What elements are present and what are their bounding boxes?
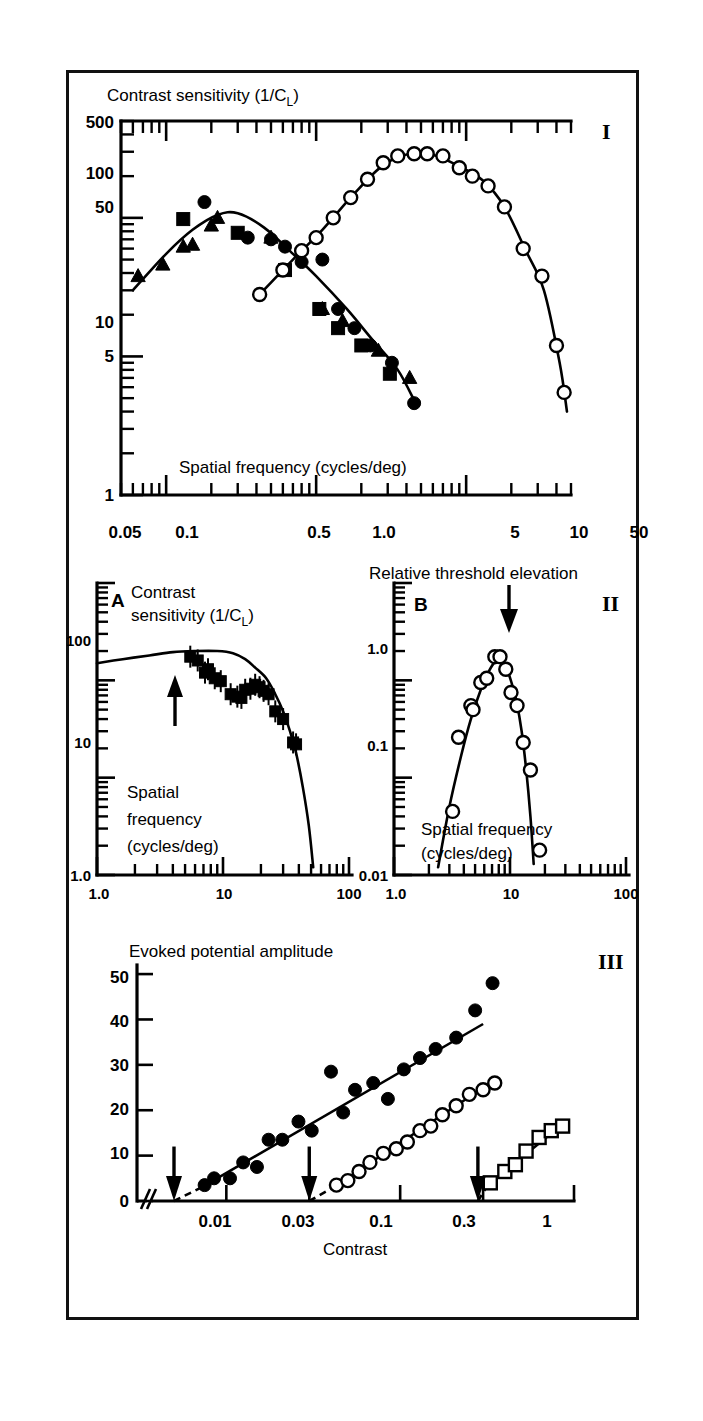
panel-III-y-title: Evoked potential amplitude (129, 942, 333, 961)
svg-text:50: 50 (630, 523, 649, 542)
subpanel-A-xtick-10: 10 (216, 885, 233, 902)
panel-III-x-tick-labels: 0.01 0.03 0.1 0.3 1 (198, 1212, 551, 1231)
svg-text:0.1: 0.1 (369, 1212, 393, 1231)
svg-text:0.1: 0.1 (175, 523, 199, 542)
panel-III-roman-numeral: III (598, 949, 624, 974)
subpanel-B-xtick-1: 1.0 (386, 885, 407, 902)
subpanel-A-y-ticks (97, 583, 115, 875)
svg-text:0.03: 0.03 (281, 1212, 314, 1231)
subpanel-A-x-title-line1: Spatial (127, 783, 179, 802)
subpanel-A-y-title-line1: Contrast (131, 583, 196, 602)
svg-text:0.05: 0.05 (108, 523, 141, 542)
panel-I-y-ticks (121, 121, 143, 495)
subpanel-B-label: B (414, 594, 428, 615)
subpanel-B-ytick-01: 0.1 (367, 737, 388, 754)
subpanel-B-y-title: Relative threshold elevation (369, 564, 578, 583)
panel-III-y-ticks (137, 974, 153, 1201)
svg-text:30: 30 (110, 1056, 129, 1075)
subpanel-B-y-ticks (394, 583, 412, 875)
panel-I-y-title: Contrast sensitivity (1/CL) (107, 86, 299, 109)
panel-III-y-tick-labels: 50 40 30 20 10 0 (110, 968, 129, 1211)
panel-III-data-points (198, 977, 569, 1192)
svg-text:10: 10 (570, 523, 589, 542)
svg-text:1: 1 (105, 486, 114, 505)
subpanel-A-x-title-line2: frequency (127, 810, 202, 829)
svg-text:0.5: 0.5 (307, 523, 331, 542)
svg-text:5: 5 (105, 347, 114, 366)
subpanel-A-label: A (111, 590, 125, 611)
subpanel-B-adaptation-arrow-down-icon (500, 585, 518, 633)
panel-I-roman-numeral: I (602, 119, 611, 144)
subpanel-B-ytick-001: 0.01 (359, 867, 388, 884)
subpanel-A-y-title-line2: sensitivity (1/CL) (131, 606, 254, 629)
panel-I: Contrast sensitivity (1/CL) I 500 100 50… (69, 73, 642, 563)
panel-I-x-tick-labels: 0.05 0.1 0.5 1.0 5 10 50 (108, 523, 648, 542)
subpanel-B: Relative threshold elevation B 1.0 0.1 0… (359, 564, 639, 902)
subpanel-A-x-title-line3: (cycles/deg) (127, 837, 219, 856)
svg-text:10: 10 (95, 313, 114, 332)
subpanel-B-xtick-100: 100 (613, 885, 638, 902)
panel-I-x-title: Spatial frequency (cycles/deg) (179, 458, 407, 477)
subpanel-B-xtick-10: 10 (503, 885, 520, 902)
subpanel-A-ytick-100: 100 (66, 632, 91, 649)
panel-II: II A Contrast sensitivity (1/CL) 100 10 … (69, 563, 642, 943)
panel-III-x-ticks (226, 1185, 574, 1201)
svg-text:10: 10 (110, 1144, 129, 1163)
svg-text:20: 20 (110, 1100, 129, 1119)
svg-text:500: 500 (86, 113, 114, 132)
svg-text:0.01: 0.01 (198, 1212, 231, 1231)
svg-text:1.0: 1.0 (372, 523, 396, 542)
panel-III: Evoked potential amplitude III 50 40 30 … (69, 933, 642, 1318)
svg-text:1: 1 (542, 1212, 551, 1231)
panel-I-data-points (131, 147, 571, 409)
svg-text:5: 5 (510, 523, 519, 542)
subpanel-B-x-title-line2: (cycles/deg) (421, 844, 513, 863)
subpanel-A: A Contrast sensitivity (1/CL) 100 10 1.0… (66, 583, 362, 902)
svg-text:100: 100 (86, 164, 114, 183)
svg-text:50: 50 (95, 198, 114, 217)
subpanel-A-adaptation-arrow-up-icon (167, 675, 183, 726)
panel-II-roman-numeral: II (602, 591, 619, 616)
subpanel-B-ytick-1: 1.0 (367, 640, 388, 657)
panel-III-axis-break-icon (137, 1189, 156, 1209)
svg-text:0.3: 0.3 (452, 1212, 476, 1231)
figure-frame: Contrast sensitivity (1/CL) I 500 100 50… (66, 70, 639, 1320)
subpanel-A-xtick-100: 100 (336, 885, 361, 902)
subpanel-A-ytick-1: 1.0 (70, 867, 91, 884)
subpanel-A-xtick-1: 1.0 (89, 885, 110, 902)
subpanel-A-data-points (185, 646, 302, 756)
svg-text:50: 50 (110, 968, 129, 987)
panel-III-x-title: Contrast (323, 1240, 388, 1259)
panel-I-y-tick-labels: 500 100 50 10 5 1 (86, 113, 114, 505)
svg-text:0: 0 (120, 1192, 129, 1211)
svg-text:40: 40 (110, 1012, 129, 1031)
panel-I-high-frequency-curve (260, 153, 567, 412)
subpanel-A-ytick-10: 10 (74, 734, 91, 751)
